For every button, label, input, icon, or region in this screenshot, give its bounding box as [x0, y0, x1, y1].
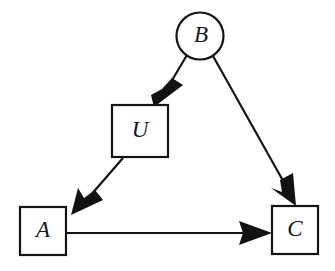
- node-b-label: B: [194, 22, 208, 47]
- edge-layer: [66, 55, 296, 245]
- edge-b-to-u-arrowhead: [151, 78, 183, 107]
- edge-a-to-c[interactable]: [66, 221, 272, 245]
- node-u[interactable]: U: [112, 105, 168, 157]
- edge-b-to-c-arrowhead: [271, 173, 296, 206]
- node-u-label: U: [132, 117, 150, 142]
- diagram-canvas: B U A C: [0, 0, 335, 271]
- edge-u-to-a[interactable]: [71, 158, 123, 215]
- node-a-label: A: [34, 217, 51, 242]
- node-a[interactable]: A: [20, 207, 66, 255]
- node-c[interactable]: C: [272, 206, 318, 254]
- edge-u-to-a-arrowhead: [71, 188, 103, 215]
- edge-b-to-c-line: [213, 56, 286, 186]
- node-layer: B U A C: [20, 13, 318, 256]
- graph-svg: B U A C: [0, 0, 335, 271]
- edge-b-to-u[interactable]: [151, 55, 187, 107]
- edge-b-to-c[interactable]: [213, 56, 296, 206]
- edge-a-to-c-arrowhead: [239, 221, 272, 245]
- node-b[interactable]: B: [177, 13, 224, 60]
- node-c-label: C: [287, 216, 303, 241]
